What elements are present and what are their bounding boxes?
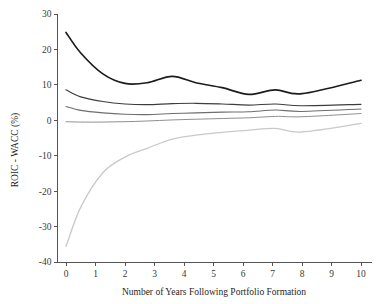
y-tick-label: 0 (47, 116, 52, 126)
y-axis-ticks: 3020100-10-20-30-40 (39, 9, 58, 267)
series-line-quintile-3 (66, 106, 361, 114)
roic-wacc-line-chart: ROIC - WACC (%) 3020100-10-20-30-40 0123… (0, 0, 384, 304)
series-line-quintile-2 (66, 90, 361, 106)
x-tick-label: 0 (64, 269, 69, 279)
x-axis-title: Number of Years Following Portfolio Form… (122, 287, 306, 297)
series-lines (66, 32, 361, 246)
y-tick-label: -40 (39, 257, 52, 267)
x-axis-ticks: 012345678910 (64, 262, 366, 279)
y-tick-label: -10 (39, 151, 52, 161)
y-tick-label: 20 (42, 45, 52, 55)
series-line-quintile-1-highest (66, 32, 361, 94)
x-tick-label: 6 (241, 269, 246, 279)
series-line-quintile-5-lowest (66, 123, 361, 246)
y-tick-label: -20 (39, 187, 52, 197)
chart-container: ROIC - WACC (%) 3020100-10-20-30-40 0123… (0, 0, 384, 304)
x-tick-label: 3 (152, 269, 157, 279)
x-tick-label: 9 (329, 269, 334, 279)
x-tick-label: 4 (182, 269, 187, 279)
series-line-quintile-4 (66, 114, 361, 123)
y-tick-label: 10 (42, 80, 52, 90)
x-tick-label: 7 (270, 269, 275, 279)
y-axis-title: ROIC - WACC (%) (10, 113, 21, 188)
x-tick-label: 5 (211, 269, 216, 279)
y-tick-label: 30 (42, 9, 52, 19)
y-tick-label: -30 (39, 222, 52, 232)
x-tick-label: 2 (123, 269, 128, 279)
x-tick-label: 1 (93, 269, 98, 279)
x-tick-label: 10 (356, 269, 366, 279)
x-tick-label: 8 (300, 269, 305, 279)
